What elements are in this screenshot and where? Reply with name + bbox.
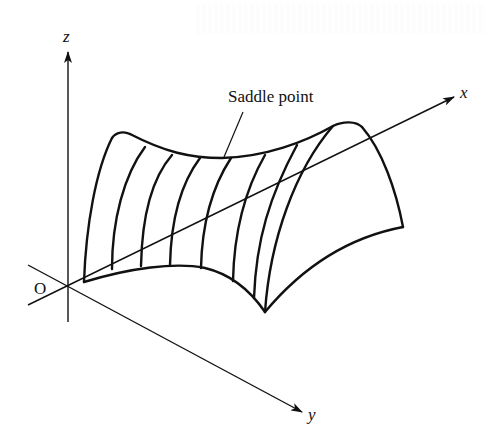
y-axis-label: y bbox=[308, 406, 316, 423]
surface-right-edge bbox=[362, 127, 403, 227]
saddle-surface-diagram bbox=[0, 0, 485, 448]
surface-front-right-edge bbox=[265, 126, 333, 312]
saddle-point-leader-line bbox=[224, 112, 243, 157]
y-axis bbox=[28, 265, 302, 412]
saddle-point-annotation: Saddle point bbox=[228, 88, 313, 105]
surface-grid-curve bbox=[233, 155, 265, 281]
origin-label: O bbox=[34, 280, 46, 297]
surface-left-edge bbox=[84, 132, 130, 282]
saddle-surface bbox=[84, 122, 403, 312]
surface-grid-curve bbox=[141, 155, 172, 266]
z-axis-label: z bbox=[63, 28, 70, 45]
surface-grid-curve bbox=[170, 158, 200, 265]
surface-front-bottom-edge bbox=[84, 266, 265, 312]
surface-top-edge bbox=[130, 122, 362, 158]
surface-far-bottom-edge bbox=[265, 227, 403, 312]
surface-grid-curve bbox=[254, 145, 297, 298]
x-axis-label: x bbox=[460, 84, 468, 101]
